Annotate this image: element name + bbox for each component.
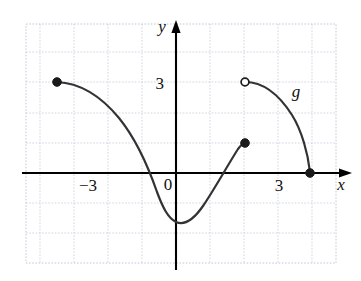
coordinate-plane-svg: y x g 0 −3 3 3 [0, 0, 361, 281]
y-tick-label-3: 3 [156, 74, 165, 93]
cutoff-title-fragment [0, 0, 361, 4]
x-tick-label-neg3: −3 [79, 176, 97, 195]
closed-endpoint-left [53, 78, 62, 87]
curve-label-g: g [292, 82, 301, 101]
curve-g-left-branch [57, 82, 245, 223]
grid-lines [26, 24, 336, 263]
y-axis-arrowhead [171, 20, 180, 33]
graph-figure: y x g 0 −3 3 3 [0, 0, 361, 281]
closed-endpoint-right [306, 169, 315, 178]
plot-frame [26, 24, 336, 263]
y-axis-label: y [156, 17, 166, 36]
curve-g-right-branch [245, 82, 310, 172]
closed-endpoint-middle [241, 139, 250, 148]
axes [22, 29, 344, 270]
open-endpoint-right-branch [241, 78, 249, 86]
x-tick-label-3: 3 [275, 176, 284, 195]
origin-label: 0 [164, 175, 173, 194]
x-axis-label: x [336, 175, 345, 194]
